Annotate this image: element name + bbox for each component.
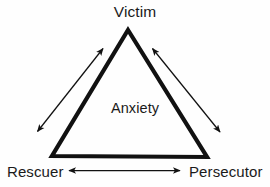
drama-triangle-diagram: Victim Anxiety Rescuer Persecutor [0, 0, 270, 187]
vertex-label-persecutor: Persecutor [189, 164, 263, 179]
arrow-victim-persecutor [153, 49, 221, 133]
triangle-outline [52, 30, 207, 157]
triangle-graphic [0, 0, 270, 187]
vertex-label-rescuer: Rescuer [7, 164, 64, 179]
vertex-label-victim: Victim [0, 4, 270, 20]
center-label-anxiety: Anxiety [0, 101, 270, 116]
